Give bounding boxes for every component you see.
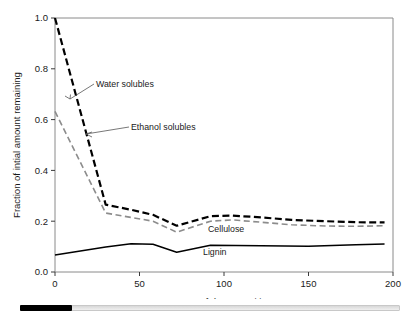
y-tick-label: 0.6 bbox=[35, 114, 48, 125]
chart-figure: 0.00.20.40.60.81.0050100150200Days of de… bbox=[0, 0, 410, 300]
x-tick-label: 150 bbox=[301, 278, 317, 289]
horizontal-scrollbar[interactable] bbox=[0, 299, 410, 315]
x-tick-label: 100 bbox=[216, 278, 232, 289]
annotation-cellulose: Cellulose bbox=[208, 224, 244, 234]
annotation-ethanol-solubles: Ethanol solubles bbox=[131, 122, 196, 132]
x-tick-label: 50 bbox=[134, 278, 145, 289]
x-axis: 050100150200 bbox=[52, 272, 401, 289]
y-tick-label: 0.4 bbox=[35, 165, 48, 176]
y-axis: 0.00.20.40.60.81.0 bbox=[35, 12, 55, 277]
y-tick-label: 0.2 bbox=[35, 216, 48, 227]
x-tick-label: 0 bbox=[52, 278, 57, 289]
x-tick-label: 200 bbox=[385, 278, 401, 289]
y-axis-title: Fraction of intial amount remaining bbox=[11, 72, 22, 218]
y-tick-label: 0.0 bbox=[35, 266, 48, 277]
scrollbar-rail[interactable] bbox=[20, 305, 400, 311]
scrollbar-thumb[interactable] bbox=[20, 305, 72, 311]
y-tick-label: 0.8 bbox=[35, 63, 48, 74]
annotation-water-solubles: Water solubles bbox=[96, 79, 154, 89]
y-tick-label: 1.0 bbox=[35, 12, 48, 23]
annotation-lignin: Lignin bbox=[203, 247, 227, 257]
